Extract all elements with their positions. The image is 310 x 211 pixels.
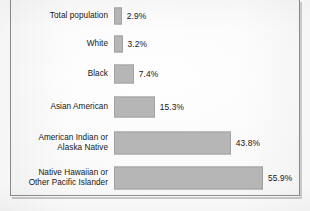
bar-segment xyxy=(114,167,263,190)
bar-segment xyxy=(114,65,134,84)
table-row: Total population 2.9% xyxy=(11,5,299,27)
bar-chart-frame: Total population 2.9% White 3.2% Black xyxy=(10,0,300,196)
bar-segment xyxy=(114,8,122,25)
bar-category-label: White xyxy=(10,39,108,49)
bar-value-label: 55.9% xyxy=(268,173,292,183)
bar-value-label: 2.9% xyxy=(127,11,147,21)
bar-segment xyxy=(114,36,123,53)
bar-segment xyxy=(114,132,231,155)
bar-value-label: 43.8% xyxy=(236,138,260,148)
table-row: Native Hawaiian or Other Pacific Islande… xyxy=(11,162,299,194)
bar-segment xyxy=(114,97,155,118)
bar-category-label: Native Hawaiian or Other Pacific Islande… xyxy=(10,168,108,187)
table-row: American Indian or Alaska Native 43.8% xyxy=(11,127,299,159)
bar-category-label: Black xyxy=(10,69,108,79)
bar-category-label: Total population xyxy=(10,11,108,21)
table-row: White 3.2% xyxy=(11,32,299,56)
table-row: Black 7.4% xyxy=(11,61,299,87)
figure-plate: Total population 2.9% White 3.2% Black xyxy=(0,0,310,211)
plate-shadow-bottom xyxy=(12,197,302,199)
bar-chart-rows: Total population 2.9% White 3.2% Black xyxy=(11,0,299,195)
plate-shadow-right xyxy=(300,2,302,199)
bar-value-label: 3.2% xyxy=(128,39,148,49)
bar-value-label: 7.4% xyxy=(139,69,159,79)
bar-value-label: 15.3% xyxy=(160,102,184,112)
table-row: Asian American 15.3% xyxy=(11,93,299,121)
bar-category-label: Asian American xyxy=(10,102,108,112)
bar-category-label: American Indian or Alaska Native xyxy=(10,133,108,152)
